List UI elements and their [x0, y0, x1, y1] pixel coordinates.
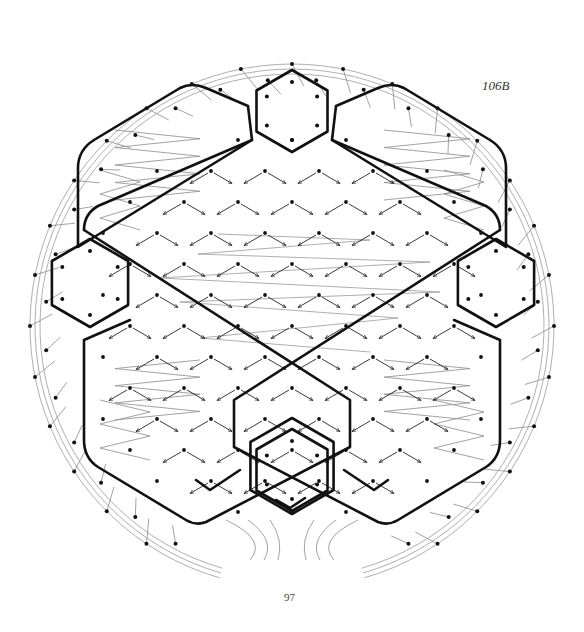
- lace-diagram: [0, 0, 584, 632]
- ground-arrows: [109, 173, 475, 494]
- page-number: 97: [284, 591, 295, 603]
- figure-label: 106B: [482, 78, 509, 94]
